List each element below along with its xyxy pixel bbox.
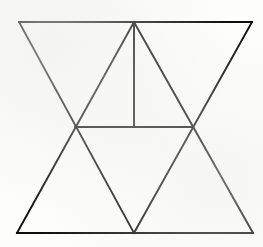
geometric-figure <box>0 0 263 247</box>
figure-canvas <box>0 0 263 247</box>
